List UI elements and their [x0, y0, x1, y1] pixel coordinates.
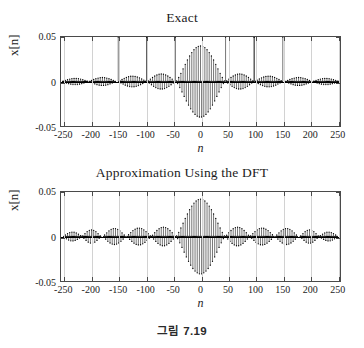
x-axis-tick: [256, 277, 257, 281]
grid-line-vertical: [64, 37, 65, 126]
grid-line-vertical: [119, 192, 120, 281]
x-axis-tick: [284, 192, 285, 196]
x-axis-tick: [229, 277, 230, 281]
y-axis-tick: [336, 83, 340, 84]
x-tick-label-0-9: 200: [303, 129, 318, 140]
figure-caption: 그림 7.19: [0, 322, 364, 338]
x-axis-tick: [311, 37, 312, 41]
grid-line-vertical: [339, 37, 340, 126]
x-tick-label-0-8: 150: [275, 129, 290, 140]
y-tick-label-approx-1: 0: [51, 231, 56, 242]
x-tick-label-1-0: -250: [54, 284, 72, 295]
y-axis-label-exact: x[n]: [6, 34, 22, 56]
x-tick-label-1-6: 50: [223, 284, 233, 295]
plot-panel-approximation: Approximation Using the DFT x[n] 0.05 0 …: [0, 165, 364, 315]
y-tick-label-exact-1: 0: [51, 76, 56, 87]
x-axis-tick: [147, 37, 148, 41]
x-tick-label-1-7: 100: [248, 284, 263, 295]
x-axis-tick: [256, 37, 257, 41]
x-axis-tick: [311, 192, 312, 196]
x-axis-tick: [284, 37, 285, 41]
x-axis-tick: [147, 277, 148, 281]
x-tick-label-1-5: 0: [198, 284, 203, 295]
grid-line-vertical: [147, 37, 148, 126]
grid-line-vertical: [229, 37, 230, 126]
grid-line-vertical: [256, 192, 257, 281]
x-axis-tick: [119, 277, 120, 281]
grid-line-vertical: [202, 37, 203, 126]
x-axis-tick: [147, 192, 148, 196]
x-tick-label-1-9: 200: [303, 284, 318, 295]
stem-plot-exact: [61, 37, 340, 126]
x-axis-tick: [202, 192, 203, 196]
x-axis-tick: [202, 122, 203, 126]
x-axis-tick: [119, 192, 120, 196]
x-tick-label-1-2: -150: [109, 284, 127, 295]
x-tick-label-0-1: -200: [82, 129, 100, 140]
x-tick-label-0-4: -50: [166, 129, 179, 140]
x-axis-tick: [119, 122, 120, 126]
figure-root: Exact x[n] 0.05 0 -0.05 n -250-200-150-1…: [0, 0, 364, 348]
panel-title-exact: Exact: [0, 10, 364, 26]
y-axis-tick: [61, 37, 65, 38]
x-axis-tick: [92, 277, 93, 281]
x-axis-tick: [92, 192, 93, 196]
grid-line-vertical: [119, 37, 120, 126]
x-axis-label-text-exact: n: [198, 141, 204, 155]
y-axis-label-approximation: x[n]: [6, 189, 22, 211]
x-axis-tick: [147, 122, 148, 126]
y-axis-tick: [61, 192, 65, 193]
x-tick-label-0-10: 250: [330, 129, 345, 140]
x-axis-tick: [92, 37, 93, 41]
x-axis-tick: [284, 122, 285, 126]
grid-line-vertical: [174, 37, 175, 126]
x-axis-tick: [284, 277, 285, 281]
x-tick-label-0-0: -250: [54, 129, 72, 140]
x-axis-tick: [174, 122, 175, 126]
x-axis-tick: [119, 37, 120, 41]
x-tick-label-0-3: -100: [136, 129, 154, 140]
x-tick-label-1-8: 150: [275, 284, 290, 295]
grid-line-vertical: [174, 192, 175, 281]
y-axis-tick: [336, 238, 340, 239]
x-axis-tick: [311, 277, 312, 281]
x-axis-tick: [256, 122, 257, 126]
x-axis-tick: [311, 122, 312, 126]
stem-plot-approximation: [61, 192, 340, 281]
x-axis-tick: [229, 122, 230, 126]
grid-line-vertical: [284, 37, 285, 126]
x-tick-label-0-6: 50: [223, 129, 233, 140]
x-tick-label-0-2: -150: [109, 129, 127, 140]
x-axis-tick: [229, 192, 230, 196]
x-axis-tick: [256, 192, 257, 196]
x-axis-tick: [339, 122, 340, 126]
grid-line-vertical: [229, 192, 230, 281]
grid-line-vertical: [311, 192, 312, 281]
x-tick-label-0-5: 0: [198, 129, 203, 140]
y-tick-label-approx-2: -0.05: [35, 277, 56, 288]
grid-line-vertical: [256, 37, 257, 126]
plot-panel-exact: Exact x[n] 0.05 0 -0.05 n -250-200-150-1…: [0, 10, 364, 160]
x-tick-label-1-3: -100: [136, 284, 154, 295]
grid-line-vertical: [64, 192, 65, 281]
y-axis-label-text-exact: x[n]: [6, 34, 21, 56]
x-axis-tick: [339, 277, 340, 281]
y-axis-tick: [61, 83, 65, 84]
x-tick-label-1-4: -50: [166, 284, 179, 295]
grid-line-vertical: [92, 37, 93, 126]
x-axis-tick: [174, 37, 175, 41]
y-axis-tick: [336, 37, 340, 38]
x-axis-tick: [229, 37, 230, 41]
x-axis-tick: [174, 277, 175, 281]
x-axis-tick: [202, 277, 203, 281]
y-axis-tick: [336, 192, 340, 193]
x-axis-tick: [92, 122, 93, 126]
plot-area-approximation: [60, 191, 341, 282]
x-axis-tick: [64, 122, 65, 126]
y-tick-label-exact-0: 0.05: [39, 31, 57, 42]
y-axis-tick: [61, 238, 65, 239]
grid-line-vertical: [284, 192, 285, 281]
x-axis-tick: [174, 192, 175, 196]
grid-line-vertical: [311, 37, 312, 126]
y-tick-label-approx-0: 0.05: [39, 186, 57, 197]
